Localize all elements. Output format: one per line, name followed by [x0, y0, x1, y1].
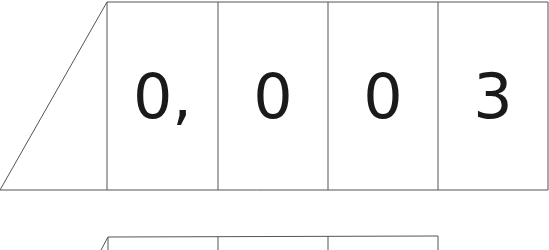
cell-hundredths: 0 — [328, 2, 438, 190]
cell-thousandths: 3 — [438, 2, 548, 190]
bottom-row-frame — [101, 236, 438, 250]
cell-tenths: 0 — [218, 2, 328, 190]
cell-units: 0, — [107, 2, 218, 190]
